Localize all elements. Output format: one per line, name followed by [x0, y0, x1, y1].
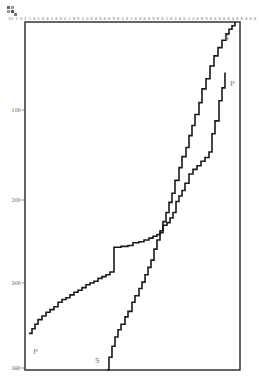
- y-tick-label: 100: [11, 107, 21, 113]
- curve-label-s: S: [95, 357, 100, 365]
- curve-p: [29, 72, 225, 333]
- curve-label-p: P: [230, 80, 235, 88]
- curves: [29, 22, 235, 370]
- y-axis: 100200300380: [11, 107, 25, 371]
- step-chart: 100200300380 PPSS: [0, 0, 266, 378]
- curve-labels: PPSS: [33, 34, 235, 365]
- y-tick-label: 300: [11, 280, 21, 286]
- curve-label-s: S: [224, 34, 229, 42]
- curve-s: [107, 22, 235, 370]
- plot-frame: [25, 22, 240, 370]
- y-tick-label: 200: [11, 197, 21, 203]
- curve-label-p: P: [33, 348, 38, 356]
- y-tick-label: 380: [11, 365, 21, 371]
